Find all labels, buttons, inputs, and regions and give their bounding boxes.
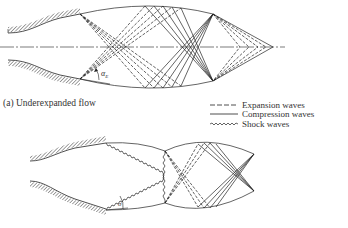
- legend-label: Expansion waves: [242, 100, 305, 110]
- lower-nozzle-wall-hatch: [8, 61, 80, 86]
- expansion-fan-second: [213, 14, 266, 81]
- upper-nozzle-wall-hatch: [8, 8, 80, 32]
- legend-item-compression: Compression waves: [210, 110, 314, 120]
- upper-nozzle-wall-b-hatch: [30, 136, 106, 160]
- angle-label-alpha: αE: [101, 69, 108, 79]
- panel-b-overexpanded: [30, 136, 254, 215]
- panel-a-underexpanded: [0, 6, 285, 88]
- expansion-fan-b: [165, 143, 210, 208]
- legend: Expansion waves Compression waves Shock …: [210, 100, 314, 129]
- caption-panel-a: (a) Underexpanded flow: [3, 98, 96, 108]
- lower-nozzle-wall-b-hatch: [30, 182, 106, 215]
- legend-label: Compression waves: [242, 109, 314, 119]
- compression-waves-b: [198, 143, 254, 208]
- jet-boundary-b-cell1-upper: [106, 143, 165, 151]
- legend-item-shock: Shock waves: [210, 119, 314, 129]
- legend-label: Shock waves: [242, 119, 289, 129]
- dashed-line-icon: [210, 101, 238, 109]
- expansion-fan-upper-lip: [80, 14, 181, 88]
- solid-line-icon: [210, 110, 238, 118]
- shock-waves: [106, 143, 165, 210]
- angle-label-sigma: σ: [118, 200, 122, 208]
- legend-item-expansion: Expansion waves: [210, 100, 314, 110]
- jet-boundary-b-cell2-lower: [165, 191, 254, 208]
- expansion-fan-lower-lip: [80, 6, 181, 79]
- zigzag-line-icon: [210, 120, 238, 128]
